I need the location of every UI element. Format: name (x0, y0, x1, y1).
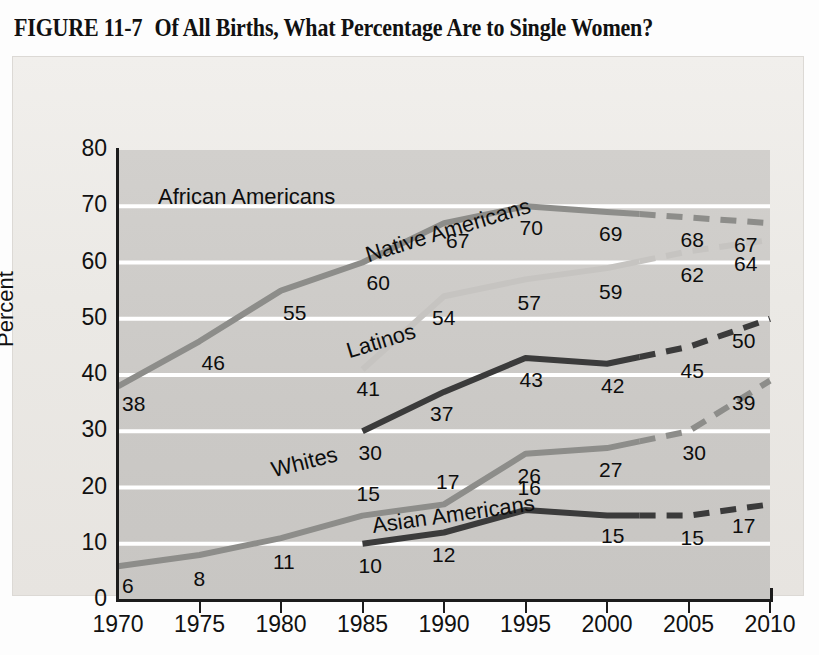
y-tick-label: 10 (61, 529, 107, 556)
value-label-aa_1985: 60 (367, 271, 390, 295)
figure-title-text: Of All Births, What Percentage Are to Si… (155, 14, 653, 41)
value-label-wh_1975: 8 (194, 567, 206, 591)
value-label-aa_2000: 69 (599, 222, 622, 246)
value-label-wh_2010: 39 (732, 391, 755, 415)
x-tick-label: 1990 (399, 611, 489, 638)
value-label-na_1990: 54 (432, 306, 455, 330)
value-label-la_2010: 50 (732, 329, 755, 353)
y-tick-label: 60 (61, 248, 107, 275)
value-label-aa_1980: 55 (283, 301, 306, 325)
y-tick-label: 20 (61, 473, 107, 500)
x-tick-label: 1970 (73, 611, 163, 638)
value-label-aa_1970: 38 (122, 392, 145, 416)
value-label-la_2005: 45 (681, 359, 704, 383)
value-label-na_2000: 59 (599, 280, 622, 304)
y-tick-label: 40 (61, 360, 107, 387)
value-label-la_1995: 43 (520, 368, 543, 392)
value-label-aa_2005: 68 (681, 228, 704, 252)
x-tick-label: 1980 (236, 611, 326, 638)
y-tick-label: 50 (61, 304, 107, 331)
figure-title: FIGURE 11-7Of All Births, What Percentag… (14, 14, 709, 48)
y-axis-title: Percent (0, 271, 19, 347)
x-tick-label: 1995 (481, 611, 571, 638)
y-axis-line (116, 148, 119, 602)
value-label-na_2010: 64 (734, 252, 757, 276)
value-label-wh_2005: 30 (683, 441, 706, 465)
figure-panel: Percent Year 807060504030201001970197519… (12, 56, 804, 596)
value-label-na_1985: 41 (357, 377, 380, 401)
value-label-na_2005: 62 (681, 263, 704, 287)
value-label-wh_1980: 11 (273, 550, 295, 574)
series-label-african-americans: African Americans (158, 184, 335, 210)
x-axis-right-cap (770, 588, 773, 602)
y-tick-label: 0 (61, 585, 107, 612)
y-tick-label: 70 (61, 191, 107, 218)
series-line-native-americans (363, 261, 640, 369)
value-label-na_1995: 57 (518, 291, 541, 315)
value-label-wh_1985: 15 (357, 482, 380, 506)
x-tick-label: 2000 (562, 611, 652, 638)
value-label-as_1985: 10 (359, 554, 382, 578)
value-label-as_2010: 17 (732, 514, 755, 538)
x-tick-label: 2005 (644, 611, 734, 638)
y-tick-label: 30 (61, 416, 107, 443)
value-label-la_2000: 42 (601, 374, 624, 398)
value-label-la_1990: 37 (430, 402, 453, 426)
value-label-aa_1975: 46 (202, 351, 225, 375)
x-tick-label: 1975 (155, 611, 245, 638)
value-label-wh_1970: 6 (122, 574, 134, 598)
x-tick-label: 2010 (725, 611, 815, 638)
value-label-wh_2000: 27 (599, 458, 622, 482)
series-line-latinos (363, 357, 640, 431)
value-label-as_2000: 15 (601, 524, 624, 548)
y-tick-label: 80 (61, 135, 107, 162)
x-tick-label: 1985 (318, 611, 408, 638)
value-label-la_1985: 30 (359, 441, 382, 465)
series-line-african-americans-projected (640, 214, 770, 223)
figure-number: FIGURE 11-7 (14, 14, 142, 41)
figure-root: FIGURE 11-7Of All Births, What Percentag… (0, 0, 819, 655)
value-label-as_1990: 12 (432, 543, 455, 567)
value-label-as_2005: 15 (681, 526, 704, 550)
value-label-wh_1990: 17 (436, 470, 459, 494)
